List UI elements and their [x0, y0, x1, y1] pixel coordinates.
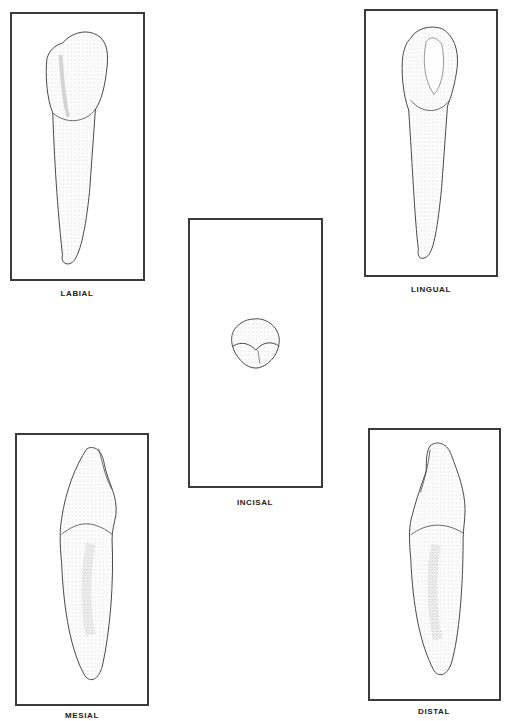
distal-tooth-illustration — [370, 430, 499, 699]
labial-view-frame — [10, 12, 145, 281]
incisal-label: INCISAL — [237, 498, 273, 507]
labial-label: LABIAL — [61, 289, 94, 298]
lingual-view-frame — [364, 9, 498, 277]
mesial-label: MESIAL — [65, 711, 99, 720]
mesial-tooth-illustration — [17, 435, 147, 704]
distal-view-frame — [368, 428, 501, 701]
distal-label: DISTAL — [418, 707, 450, 716]
incisal-view-frame — [188, 218, 323, 488]
incisal-tooth-illustration — [190, 220, 321, 486]
labial-tooth-illustration — [12, 14, 143, 279]
lingual-label: LINGUAL — [411, 285, 451, 294]
mesial-view-frame — [15, 433, 149, 706]
lingual-tooth-illustration — [366, 11, 496, 275]
